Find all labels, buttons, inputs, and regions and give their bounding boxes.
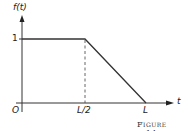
y-axis-arrow-icon — [20, 15, 25, 22]
origin-label: O — [12, 106, 19, 115]
x-axis-label: t — [177, 97, 181, 106]
function-graph — [22, 39, 146, 103]
diagram-canvas — [0, 0, 188, 131]
x-tick-label-half: L/2 — [77, 106, 91, 115]
y-tick-label: 1 — [12, 34, 18, 43]
x-axis-arrow-icon — [166, 101, 174, 106]
y-axis-label: f(t) — [13, 3, 27, 12]
x-tick-label-full: L — [143, 106, 148, 115]
figure-caption: Figure 3.14 — [137, 120, 188, 131]
